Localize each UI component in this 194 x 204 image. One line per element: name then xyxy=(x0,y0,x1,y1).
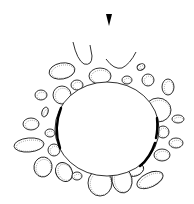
cell xyxy=(45,129,55,137)
cell xyxy=(23,118,39,130)
follicle-diagram xyxy=(0,0,194,204)
open-cells xyxy=(73,42,136,68)
cell xyxy=(154,149,170,161)
cell xyxy=(13,137,44,154)
cell xyxy=(122,76,132,84)
open-cell xyxy=(73,42,92,64)
cell xyxy=(72,172,82,180)
arrowhead-icon xyxy=(106,14,112,26)
cell xyxy=(169,138,183,148)
membrane-segment xyxy=(156,118,157,138)
cell xyxy=(40,106,49,117)
cell xyxy=(172,115,184,123)
open-cell xyxy=(106,52,136,68)
cell xyxy=(35,90,47,100)
cell xyxy=(142,74,154,86)
cell xyxy=(32,156,53,179)
